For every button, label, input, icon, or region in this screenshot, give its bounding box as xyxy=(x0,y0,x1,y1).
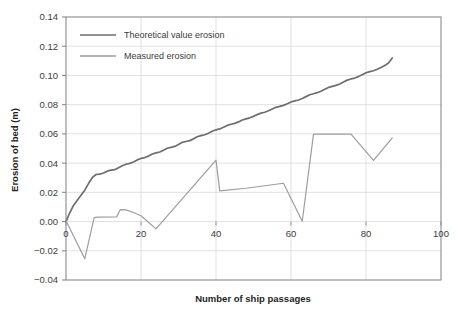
y-tick-label: 0.08 xyxy=(40,99,59,110)
y-tick-label: −0.02 xyxy=(34,245,58,256)
y-tick-label: 0.02 xyxy=(40,187,59,198)
x-tick-label: 60 xyxy=(286,228,297,239)
x-tick-label: 40 xyxy=(211,228,222,239)
x-axis-title: Number of ship passages xyxy=(195,293,311,304)
x-tick-label: 20 xyxy=(136,228,147,239)
erosion-line-chart: 020406080100 0.140.120.100.080.060.040.0… xyxy=(0,0,464,316)
x-tick-label: 80 xyxy=(361,228,372,239)
y-tick-label: 0.14 xyxy=(40,11,59,22)
y-tick-label: −0.04 xyxy=(34,274,58,285)
x-tick-label: 0 xyxy=(63,228,68,239)
chart-background xyxy=(0,0,464,316)
x-tick-label: 100 xyxy=(433,228,449,239)
legend-label-measured: Measured erosion xyxy=(124,51,196,61)
legend-label-theoretical: Theoretical value erosion xyxy=(124,30,225,40)
y-tick-label: 0.10 xyxy=(40,70,59,81)
y-tick-label: 0.00 xyxy=(40,216,59,227)
y-axis-title: Erosion of bed (m) xyxy=(9,108,20,192)
y-tick-label: 0.12 xyxy=(40,41,59,52)
y-tick-label: 0.06 xyxy=(40,128,59,139)
chart-figure: 020406080100 0.140.120.100.080.060.040.0… xyxy=(0,0,464,316)
y-tick-label: 0.04 xyxy=(40,158,59,169)
